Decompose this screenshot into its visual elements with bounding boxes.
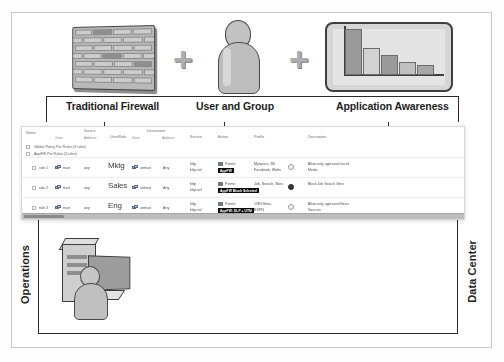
profile-status-icon: [288, 184, 294, 190]
cell-description: Media: [308, 168, 318, 172]
cell-dest-address: Any: [163, 166, 169, 170]
cell-user-role: Eng: [108, 201, 122, 210]
cell-application: Job, Search, Sites: [254, 182, 283, 186]
application-chart-icon: [325, 22, 453, 92]
source-zone-icon: [55, 165, 61, 170]
chart-bar: [363, 48, 380, 75]
scrollbar-thumb[interactable]: [24, 215, 64, 218]
label-user-and-group: User and Group: [196, 100, 274, 112]
plus-operator-icon-2: +: [289, 42, 309, 76]
row-select-checkbox[interactable]: [32, 206, 36, 210]
action-permit-icon: [218, 202, 223, 206]
policy-group-row[interactable]: AppFW Pre Rules (3 rules): [34, 152, 77, 156]
cell-application: CNN Sites,: [254, 202, 272, 206]
firewall-brick-icon: [72, 25, 155, 91]
action-profile-badge: AppFW Block Selected: [218, 188, 259, 193]
cell-service: http-ssl: [190, 188, 202, 192]
chart-bar: [417, 65, 434, 75]
cell-action: Permit: [225, 162, 235, 166]
cell-service: http: [190, 202, 196, 206]
concept-icon-row: + +: [25, 14, 477, 94]
table-header-name: Name: [26, 131, 36, 135]
table-subheader-source-zone: Zone: [55, 136, 63, 140]
table-header-destination: Destination: [147, 129, 165, 133]
table-horizontal-scrollbar[interactable]: [22, 213, 464, 219]
table-subheader-dest-address: Address: [162, 136, 174, 140]
table-header-user-role: User/Role: [110, 135, 126, 139]
operator-person-icon: [74, 266, 108, 320]
cell-source-address: any: [84, 166, 90, 170]
operator-body: [74, 283, 108, 320]
table-subheader-dest-zone: Zone: [132, 136, 140, 140]
source-zone-icon: [55, 185, 61, 190]
cell-rule-name[interactable]: rule 2: [39, 186, 48, 190]
policy-rules-table[interactable]: NameSourceUser/RoleDestinationServiceAct…: [21, 126, 465, 220]
cell-description: Sources: [308, 208, 321, 212]
table-row-divider: [22, 177, 464, 178]
profile-status-icon: [288, 204, 294, 210]
chart-bars: [345, 27, 434, 75]
table-row-divider: [22, 197, 464, 198]
plus-operator-icon: +: [173, 42, 193, 76]
action-permit-icon: [218, 162, 223, 166]
profile-status-icon: [288, 164, 294, 170]
source-zone-icon: [55, 205, 61, 210]
cell-dest-zone: untrust: [140, 186, 151, 190]
cell-service: http: [190, 182, 196, 186]
chart-bar: [381, 55, 398, 75]
cell-dest-address: Any: [163, 186, 169, 190]
diagram-canvas: + + Traditional Firewall User and Group …: [0, 0, 504, 362]
cell-application: Facebook, Webs: [254, 168, 281, 172]
cell-user-role: Sales: [108, 181, 127, 190]
cell-application: ESPN: [254, 208, 264, 212]
table-subheader-source-address: Address: [84, 136, 96, 140]
user-person-icon: [217, 20, 261, 94]
cell-action: Permit: [225, 182, 235, 186]
zone-label-data-center: Data Center: [466, 240, 478, 303]
table-row-divider: [22, 157, 464, 158]
cell-service: http-ssl: [190, 168, 202, 172]
zone-label-operations: Operations: [19, 245, 31, 304]
cell-source-address: any: [84, 186, 90, 190]
cell-service: http: [190, 162, 196, 166]
operations-server-icon: [58, 238, 144, 320]
cell-source-address: any: [84, 206, 90, 210]
cell-rule-name[interactable]: rule 1: [39, 166, 48, 170]
label-application-awareness: Application Awareness: [336, 100, 449, 112]
cell-action: Permit: [225, 202, 235, 206]
table-header-service: Service: [190, 135, 202, 139]
row-select-checkbox[interactable]: [32, 166, 36, 170]
table-header-source: Source: [84, 129, 95, 133]
dest-zone-icon: [132, 205, 138, 210]
cell-description: Block Job Search Sites: [308, 182, 344, 186]
cell-description: Allow only approved News: [308, 202, 349, 206]
person-highlight: [223, 48, 231, 86]
cell-dest-zone: untrust: [140, 166, 151, 170]
action-profile-badge: AppFW: [218, 168, 234, 173]
cell-dest-zone: untrust: [140, 206, 151, 210]
group-expand-checkbox[interactable]: [26, 145, 30, 149]
cell-source-zone: trust: [63, 166, 70, 170]
cell-description: Allow only approved social: [308, 162, 349, 166]
cell-source-zone: trust: [63, 186, 70, 190]
cell-rule-name[interactable]: rule 3: [39, 206, 48, 210]
cell-service: http-ssl: [190, 208, 202, 212]
policy-group-row[interactable]: Global Policy Pre Rules (3 rules): [34, 145, 86, 149]
table-header-description: Description: [308, 135, 326, 139]
dest-zone-icon: [132, 185, 138, 190]
label-traditional-firewall: Traditional Firewall: [66, 100, 159, 112]
action-permit-icon: [218, 182, 223, 186]
cell-user-role: Mktg: [108, 161, 125, 170]
cell-dest-address: Any: [163, 206, 169, 210]
chart-bar: [345, 29, 362, 75]
cell-application: Myspace, IM,: [254, 162, 275, 166]
cell-source-zone: trust: [63, 206, 70, 210]
chart-bar: [399, 62, 416, 75]
chart-inner-panel: [333, 29, 445, 85]
table-header-profile: Profile: [254, 135, 264, 139]
dest-zone-icon: [132, 165, 138, 170]
group-expand-checkbox[interactable]: [26, 152, 30, 156]
table-header-action: Action: [218, 135, 228, 139]
row-select-checkbox[interactable]: [32, 186, 36, 190]
